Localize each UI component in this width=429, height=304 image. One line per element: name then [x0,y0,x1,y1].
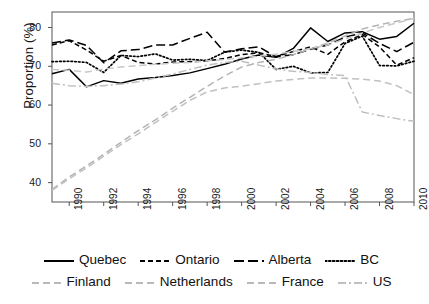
series-line-france [52,19,414,73]
legend-item-france: France [247,274,324,289]
legend-swatch-icon [125,275,155,287]
legend-key-dashed-gray [247,277,277,289]
y-tick-label: 70 [19,59,41,71]
series-line-bc [52,36,414,73]
legend-key-dashdot-gray [338,277,368,289]
y-tick-label: 80 [19,21,41,33]
legend-swatch-icon [234,253,264,265]
legend-label: Finland [67,274,111,289]
legend-item-netherlands: Netherlands [125,274,233,289]
x-tick-label: 2004 [315,188,326,210]
legend-key-dashed-gray [125,277,155,289]
legend-item-alberta: Alberta [234,252,312,267]
x-tick-label: 2002 [280,188,291,210]
legend-label: France [282,274,324,289]
legend-label: Alberta [269,252,312,267]
legend-label: BC [360,252,379,267]
legend-label: Netherlands [160,274,233,289]
legend-swatch-icon [325,253,355,265]
x-tick-label: 1996 [177,188,188,210]
x-tick-label: 2006 [349,188,360,210]
series-line-finland [52,18,414,189]
legend-swatch-icon [32,275,62,287]
legend-swatch-icon [140,253,170,265]
legend-key-dashed-gray [32,277,62,289]
legend-swatch-icon [247,275,277,287]
series-line-ontario [52,34,414,65]
y-tick-label: 60 [19,98,41,110]
legend-item-quebec: Quebec [44,252,126,267]
x-tick-label: 2000 [246,188,257,210]
y-tick-label: 40 [19,176,41,188]
chart-legend: QuebecOntarioAlbertaBC FinlandNetherland… [0,248,423,292]
legend-item-us: US [338,274,392,289]
legend-row-provinces: QuebecOntarioAlbertaBC [0,248,423,270]
legend-key-dotted-black [325,255,355,267]
x-tick-label: 2010 [418,188,429,210]
legend-row-countries: FinlandNetherlandsFranceUS [0,270,423,292]
series-line-quebec [52,23,414,87]
legend-label: Ontario [175,252,219,267]
x-tick-label: 1998 [211,188,222,210]
y-tick-label: 50 [19,137,41,149]
legend-swatch-icon [44,253,74,265]
legend-item-bc: BC [325,252,379,267]
legend-item-ontario: Ontario [140,252,219,267]
legend-key-solid-black [44,255,74,267]
x-tick-label: 1994 [142,188,153,210]
legend-key-dashed-black [140,255,170,267]
x-tick-label: 1990 [73,188,84,210]
x-tick-label: 2008 [384,188,395,210]
legend-item-finland: Finland [32,274,111,289]
x-tick-label: 1992 [108,188,119,210]
series-line-netherlands [52,78,414,190]
legend-key-longdash-black [234,255,264,267]
legend-label: Quebec [79,252,126,267]
legend-label: US [373,274,392,289]
legend-swatch-icon [338,275,368,287]
